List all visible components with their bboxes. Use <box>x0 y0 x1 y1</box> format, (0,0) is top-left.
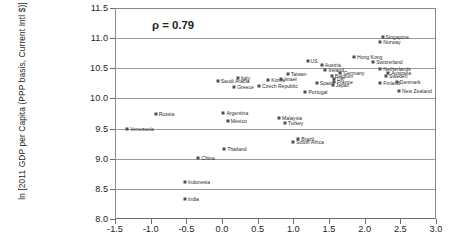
data-point <box>381 35 384 38</box>
correlation-annotation: ρ = 0.79 <box>152 19 194 31</box>
x-tick-label: 2.5 <box>380 224 420 234</box>
data-point-label: New Zealand <box>402 88 432 94</box>
data-point <box>379 41 382 44</box>
y-tick-label: 10.0 <box>74 93 108 103</box>
data-point-label: Mexico <box>231 118 247 124</box>
data-point <box>372 61 375 64</box>
x-tick-label: 0.0 <box>202 224 242 234</box>
data-point <box>283 122 286 125</box>
gridline <box>116 159 435 160</box>
data-point <box>379 68 382 71</box>
data-point <box>278 117 281 120</box>
data-point-label: Austria <box>325 62 341 68</box>
gridline <box>116 129 435 130</box>
x-tick-mark <box>329 219 330 224</box>
x-tick-mark <box>115 219 116 224</box>
data-point <box>352 56 355 59</box>
x-tick-mark <box>436 219 437 224</box>
data-point-label: Germany <box>343 70 364 76</box>
data-point <box>258 84 261 87</box>
data-point <box>154 113 157 116</box>
data-point-label: Singapore <box>386 34 409 40</box>
data-point-label: Denmark <box>400 79 421 85</box>
data-point-label: Malaysia <box>282 115 302 121</box>
data-point <box>306 60 309 63</box>
x-tick-mark <box>293 219 294 224</box>
data-point-label: India <box>188 196 199 202</box>
data-point <box>183 180 186 183</box>
gridline <box>116 189 435 190</box>
x-tick-label: 1.5 <box>309 224 349 234</box>
data-point <box>233 85 236 88</box>
x-tick-mark <box>365 219 366 224</box>
y-tick-label: 9.0 <box>74 154 108 164</box>
scatter-chart: ln [2011 GDP per Capita (PPP basis, Curr… <box>0 0 451 244</box>
x-tick-label: -1.5 <box>95 224 135 234</box>
data-point-label: Ireland <box>328 67 344 73</box>
data-point <box>183 198 186 201</box>
x-tick-label: 1.0 <box>273 224 313 234</box>
data-point <box>324 69 327 72</box>
data-point-label: Indonesia <box>188 179 210 185</box>
data-point-label: Korea <box>271 77 285 83</box>
data-point <box>330 74 333 77</box>
x-tick-label: 3.0 <box>416 224 451 234</box>
data-point-label: Russia <box>159 111 175 117</box>
data-point <box>385 75 388 78</box>
data-point <box>280 78 283 81</box>
data-point-label: Portugal <box>308 89 327 95</box>
data-point-label: Greece <box>237 84 254 90</box>
data-point <box>126 128 129 131</box>
data-point-label: Czech Republic <box>262 83 298 89</box>
data-point <box>267 78 270 81</box>
data-point <box>216 79 219 82</box>
data-point-label: US <box>311 58 318 64</box>
data-point <box>320 63 323 66</box>
x-tick-mark <box>222 219 223 224</box>
x-tick-mark <box>186 219 187 224</box>
y-tick-label: 8.5 <box>74 184 108 194</box>
data-point <box>297 137 300 140</box>
data-point <box>197 156 200 159</box>
data-point <box>332 81 335 84</box>
x-tick-mark <box>151 219 152 224</box>
gridline <box>116 98 435 99</box>
data-point <box>292 141 295 144</box>
x-tick-label: -0.5 <box>166 224 206 234</box>
data-point <box>395 80 398 83</box>
data-point <box>304 91 307 94</box>
y-tick-label: 10.5 <box>74 63 108 73</box>
data-point-label: China <box>201 155 214 161</box>
data-point <box>397 90 400 93</box>
data-point-label: Venezuela <box>130 126 154 132</box>
y-tick-label: 11.0 <box>74 33 108 43</box>
data-point <box>226 120 229 123</box>
y-tick-label: 8.0 <box>74 214 108 224</box>
data-point-label: Switzerland <box>376 59 402 65</box>
y-tick-label: 11.5 <box>74 3 108 13</box>
data-point-label: Norway <box>383 39 400 45</box>
x-tick-label: -1.0 <box>131 224 171 234</box>
data-point <box>236 76 239 79</box>
data-point-label: Brazil <box>301 136 314 142</box>
data-point <box>379 82 382 85</box>
y-tick-label: 9.5 <box>74 124 108 134</box>
x-tick-label: 2.0 <box>345 224 385 234</box>
x-tick-label: 0.5 <box>238 224 278 234</box>
data-point-label: Thailand <box>227 146 247 152</box>
data-point <box>286 73 289 76</box>
data-point <box>223 148 226 151</box>
data-point <box>331 84 334 87</box>
data-point <box>222 111 225 114</box>
data-point-label: Italy <box>241 75 250 81</box>
data-point-label: Taiwan <box>291 71 307 77</box>
data-point-label: Argentina <box>226 110 248 116</box>
x-tick-mark <box>400 219 401 224</box>
x-tick-mark <box>258 219 259 224</box>
data-point <box>315 82 318 85</box>
